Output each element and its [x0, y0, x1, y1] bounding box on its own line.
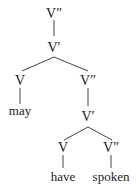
edge-vbar1-vleft — [22, 57, 54, 71]
edge-vbar1-vdp — [54, 57, 88, 71]
edge-vbar2-vhave — [64, 127, 88, 140]
node-vbar2: V′ — [81, 109, 94, 124]
node-root: V″ — [46, 6, 62, 21]
syntax-tree: V″ V′ V may V″ V′ V have V″ spoken — [0, 0, 139, 192]
word-may: may — [9, 103, 32, 118]
edge-vbar2-vdp2 — [88, 127, 112, 140]
node-v-left: V — [15, 73, 25, 88]
word-spoken: spoken — [93, 169, 130, 184]
node-vdp-spoken: V″ — [103, 140, 119, 155]
node-vbar1: V′ — [47, 40, 60, 55]
node-v-have: V — [58, 140, 68, 155]
node-vdp-right: V″ — [80, 73, 96, 88]
word-have: have — [51, 169, 76, 184]
